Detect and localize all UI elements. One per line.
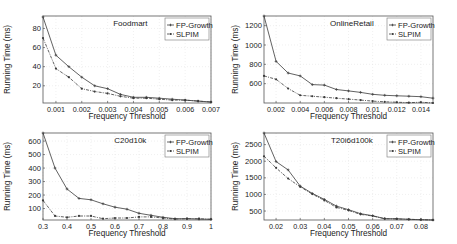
legend-entry: FP-Growth <box>176 138 213 147</box>
x-tick-label: 0.002 <box>267 105 285 114</box>
y-tick-label: 600 <box>249 79 262 88</box>
panel-title: C20d10k <box>114 136 147 145</box>
x-tick-label: 0.001 <box>47 105 65 114</box>
y-tick-label: 200 <box>28 191 41 200</box>
x-tick-label: 0.3 <box>38 222 48 231</box>
x-tick-label: 0.006 <box>176 105 194 114</box>
y-tick-label: 2000 <box>245 157 262 166</box>
x-tick-label: 0.03 <box>293 222 307 231</box>
y-axis-ticks: 60080010001200 <box>245 21 266 88</box>
x-tick-label: 0.07 <box>390 222 404 231</box>
panel-c20d10k: 0.30.40.50.60.70.80.91100200300400500600… <box>3 132 213 238</box>
x-tick-label: 0.08 <box>414 222 428 231</box>
panel-title: T20i6d100k <box>331 136 374 145</box>
x-tick-label: 0.014 <box>412 105 430 114</box>
x-axis-label: Frequency Threshold <box>88 112 166 121</box>
y-axis-ticks: 5001000150020002500 <box>245 140 266 215</box>
y-axis-label: Running Time (ms) <box>3 142 12 211</box>
y-tick-label: 80 <box>33 24 41 33</box>
y-tick-label: 1000 <box>245 190 262 199</box>
y-tick-label: 60 <box>33 43 41 52</box>
y-axis-ticks: 100200300400500600 <box>28 137 45 213</box>
x-tick-label: 0.004 <box>291 105 309 114</box>
legend-entry: SLPIM <box>398 30 421 39</box>
panel-foodmart: 0.0010.0020.0030.0040.0050.0060.00720406… <box>3 16 220 121</box>
y-tick-label: 2500 <box>245 140 262 149</box>
x-tick-label: 0.007 <box>202 105 220 114</box>
y-tick-label: 500 <box>28 150 41 159</box>
legend-entry: FP-Growth <box>176 21 213 30</box>
y-tick-label: 20 <box>33 81 41 90</box>
legend-entry: FP-Growth <box>398 138 435 147</box>
y-tick-label: 800 <box>249 60 262 69</box>
y-axis-label: Running Time (ms) <box>3 25 12 94</box>
legend-entry: FP-Growth <box>398 21 435 30</box>
legend-entry: SLPIM <box>176 30 199 39</box>
series-slpim <box>42 37 212 103</box>
legend-entry: SLPIM <box>398 147 421 156</box>
x-tick-label: 0.9 <box>182 222 192 231</box>
y-axis-label: Running Time (ms) <box>231 142 240 211</box>
legend: FP-GrowthSLPIM <box>387 18 435 40</box>
figure: 0.0010.0020.0030.0040.0050.0060.00720406… <box>0 0 457 244</box>
x-tick-label: 0.4 <box>62 222 72 231</box>
x-axis-label: Frequency Threshold <box>310 112 388 121</box>
y-axis-label: Running Time (ms) <box>231 25 240 94</box>
y-tick-label: 400 <box>28 164 41 173</box>
y-tick-label: 600 <box>28 137 41 146</box>
x-tick-label: 0.02 <box>269 222 283 231</box>
charts-grid: 0.0010.0020.0030.0040.0050.0060.00720406… <box>0 0 457 244</box>
panel-title: Foodmart <box>113 19 148 28</box>
x-tick-label: 1 <box>209 222 213 231</box>
y-tick-label: 1200 <box>245 21 262 30</box>
y-tick-label: 1000 <box>245 41 262 50</box>
legend: FP-GrowthSLPIM <box>165 18 213 40</box>
y-tick-label: 500 <box>249 207 262 216</box>
legend: FP-GrowthSLPIM <box>165 135 213 157</box>
y-tick-label: 1500 <box>245 173 262 182</box>
legend: FP-GrowthSLPIM <box>387 135 435 157</box>
y-tick-label: 300 <box>28 177 41 186</box>
panel-t20i6d100k: 0.020.030.040.050.060.070.08500100015002… <box>231 132 435 238</box>
panel-onlineretail: 0.0020.0040.0060.0080.010.0120.014600800… <box>231 15 435 121</box>
x-axis-label: Frequency Threshold <box>88 229 166 238</box>
x-tick-label: 0.012 <box>388 105 406 114</box>
y-tick-label: 40 <box>33 62 41 71</box>
y-tick-label: 100 <box>28 204 41 213</box>
x-axis-label: Frequency Threshold <box>310 229 388 238</box>
panel-title: OnlineRetail <box>330 19 374 28</box>
legend-entry: SLPIM <box>176 147 199 156</box>
